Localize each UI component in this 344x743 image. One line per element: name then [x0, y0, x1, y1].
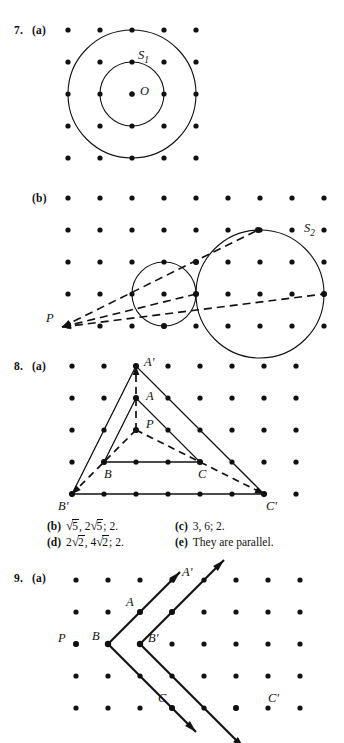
label-P: P	[45, 311, 54, 325]
lattice-dot	[197, 395, 202, 400]
figure-7a: 7. (a) S1O	[0, 8, 344, 186]
lattice-dot	[201, 673, 206, 678]
lattice-dot	[265, 609, 270, 614]
vertex-B	[105, 641, 111, 647]
lattice-dot	[69, 363, 74, 368]
lattice-dot	[297, 609, 302, 614]
radicand: 2	[102, 535, 109, 548]
vertex-B'	[137, 641, 143, 647]
lattice-dot	[201, 609, 206, 614]
lattice-dot	[161, 195, 166, 200]
answer-key-page: 7. (a) S1O (b) PS2 8. (a) A'APBCB'C' (b)…	[0, 0, 344, 743]
lattice-dot	[233, 673, 238, 678]
tangent-ray-upper	[62, 230, 258, 327]
figure-8a-canvas: A'APBCB'C'	[0, 358, 344, 518]
lattice-dot	[229, 395, 234, 400]
lattice-dot	[297, 705, 302, 710]
label-P: P	[145, 417, 154, 431]
label-S1: S1	[138, 48, 149, 65]
answer-tag: (c)	[175, 518, 188, 534]
answer-row: (b)√5, 2√5; 2.(c)3, 6; 2.	[47, 518, 274, 534]
lattice-dot	[97, 291, 102, 296]
radicand: 5	[72, 519, 79, 532]
lattice-dot	[69, 427, 74, 432]
tangency-dot	[321, 291, 327, 297]
lattice-dot	[161, 155, 166, 160]
point-C'	[233, 705, 239, 711]
lattice-dot	[233, 577, 238, 582]
lattice-dot	[137, 577, 142, 582]
radicand: 2	[78, 535, 85, 548]
answer-text: They are parallel.	[193, 534, 274, 550]
lattice-dot	[197, 363, 202, 368]
lattice-dot	[233, 641, 238, 646]
label-P: P	[57, 631, 66, 645]
lattice-dot	[73, 705, 78, 710]
answer-text: 2√2, 4√2; 2.	[66, 534, 124, 550]
lattice-dot	[257, 323, 262, 328]
lattice-dot	[161, 59, 166, 64]
point-A	[137, 609, 143, 615]
vertex-triangle-ABC	[197, 459, 203, 465]
answer-text: 3, 6; 2.	[193, 518, 225, 534]
lattice-dot	[225, 195, 230, 200]
figure-7b: (b) PS2	[0, 186, 344, 358]
lattice-dot	[193, 155, 198, 160]
lattice-dot	[293, 459, 298, 464]
ray-B-to-A	[108, 572, 180, 644]
answer-item-c: (c)3, 6; 2.	[175, 518, 225, 534]
figure-8a: 8. (a) A'APBCB'C'	[0, 358, 344, 518]
lattice-dot	[293, 363, 298, 368]
lattice-dot	[193, 227, 198, 232]
answer-item-b: (b)√5, 2√5; 2.	[47, 518, 175, 534]
radicand: 5	[97, 519, 104, 532]
lattice-dot	[97, 259, 102, 264]
lattice-dot	[289, 323, 294, 328]
lattice-dot	[69, 395, 74, 400]
lattice-dot	[97, 59, 102, 64]
center-O	[129, 91, 134, 96]
lattice-dot	[229, 427, 234, 432]
answer-tag: (e)	[175, 534, 188, 550]
tangent-ray-middle	[62, 294, 196, 327]
vertex-triangle-ABC	[101, 459, 107, 465]
label-C: C	[158, 691, 167, 705]
label-B-prime: B'	[58, 499, 69, 513]
lattice-dot	[129, 195, 134, 200]
label-C-prime: C'	[266, 499, 277, 513]
lattice-dot	[257, 259, 262, 264]
lattice-dot	[73, 577, 78, 582]
lattice-dot	[297, 673, 302, 678]
lattice-dot	[257, 195, 262, 200]
lattice-dot	[289, 291, 294, 296]
lattice-dot	[289, 259, 294, 264]
lattice-dot	[105, 609, 110, 614]
lattice-dot	[97, 155, 102, 160]
label-O: O	[140, 84, 149, 98]
lattice-dot	[65, 227, 70, 232]
vertex-triangle-A-prime-B-prime-C-prime	[261, 491, 267, 497]
lattice-dot	[105, 705, 110, 710]
subscript: 2	[310, 228, 315, 238]
lattice-dot	[201, 641, 206, 646]
lattice-dot	[161, 27, 166, 32]
lattice-dot	[193, 123, 198, 128]
figure-7b-canvas: PS2	[0, 186, 344, 358]
answer-tag: (d)	[47, 534, 61, 550]
lattice-dot	[193, 59, 198, 64]
lattice-dot	[261, 459, 266, 464]
point-A'	[169, 609, 175, 615]
lattice-dot	[321, 195, 326, 200]
lattice-dot	[169, 641, 174, 646]
lattice-dot	[129, 227, 134, 232]
lattice-dot	[265, 673, 270, 678]
label-B-prime: B'	[148, 631, 159, 645]
vertex-triangle-A-prime-B-prime-C-prime	[69, 491, 75, 497]
lattice-dot	[257, 291, 262, 296]
lattice-dot	[161, 123, 166, 128]
label-C: C	[198, 467, 207, 481]
point-P	[73, 641, 79, 647]
lattice-dot	[297, 577, 302, 582]
lattice-dot	[225, 291, 230, 296]
lattice-dot	[97, 27, 102, 32]
